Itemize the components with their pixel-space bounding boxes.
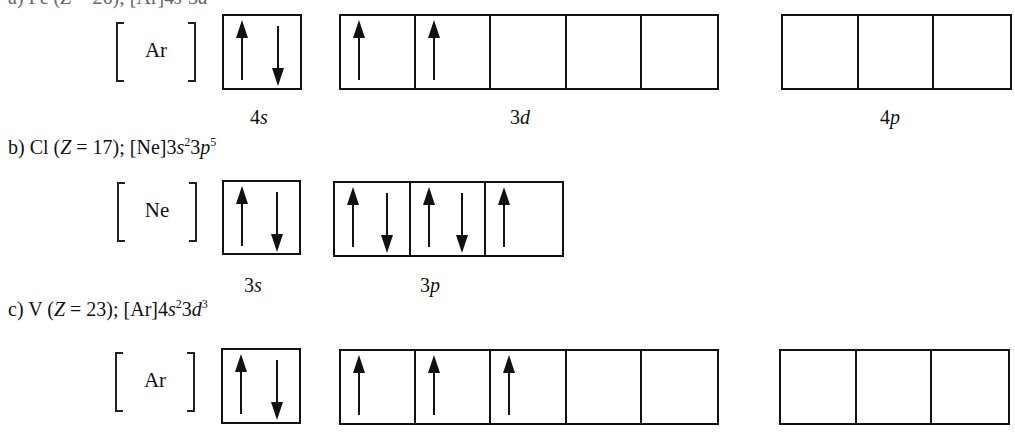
row-b-3p-orbitals	[333, 181, 564, 257]
orbital-box-3d-4	[567, 351, 642, 423]
orbital-box-4s-1	[223, 350, 299, 422]
right-bracket-icon	[188, 22, 196, 82]
orbital-box-3d-2	[416, 16, 491, 88]
row-a-3d-orbitals	[339, 14, 719, 90]
row-c-core-bracket: Ar	[115, 352, 195, 412]
spin-down-arrow-icon	[456, 193, 468, 253]
row-a-4p-label: 4p	[880, 106, 900, 129]
core-symbol: Ne	[117, 198, 197, 223]
spin-up-arrow-icon	[498, 187, 510, 247]
row-a-heading-partial: a) Fe (Z = 26); [Ar]4s23d6	[8, 0, 214, 9]
spin-up-arrow-icon	[236, 20, 248, 80]
row-b-heading: b) Cl (Z = 17); [Ne]3s23p5	[8, 136, 216, 159]
spin-up-arrow-icon	[353, 355, 365, 415]
row-a-4p-orbitals	[781, 14, 1012, 90]
orbital-box-3d-5	[642, 16, 717, 88]
row-c-4s-orbital	[221, 348, 301, 424]
spin-up-arrow-icon	[503, 355, 515, 415]
spin-up-arrow-icon	[428, 20, 440, 80]
core-symbol: Ar	[115, 368, 195, 393]
orbital-box-3s-1	[224, 182, 299, 253]
orbital-box-4p-2	[859, 16, 935, 88]
row-c-heading: c) V (Z = 23); [Ar]4s23d3	[8, 298, 208, 321]
orbital-box-3d-1	[341, 16, 416, 88]
right-bracket-icon	[187, 352, 195, 412]
core-symbol: Ar	[116, 38, 196, 63]
right-bracket-icon	[189, 182, 197, 242]
row-a-core-bracket: Ar	[116, 22, 196, 82]
orbital-box-4p-3	[932, 351, 1008, 423]
orbital-box-4p-1	[781, 351, 857, 423]
row-c-4p-orbitals	[779, 349, 1010, 425]
orbital-box-3d-2	[416, 351, 491, 423]
spin-up-arrow-icon	[235, 354, 247, 414]
orbital-box-3d-4	[567, 16, 642, 88]
orbital-box-4p-1	[783, 16, 859, 88]
orbital-box-3p-2	[411, 183, 487, 255]
spin-up-arrow-icon	[423, 187, 435, 247]
spin-up-arrow-icon	[353, 20, 365, 80]
row-a-4s-label: 4s	[250, 106, 268, 129]
row-b-3s-orbital	[222, 180, 301, 255]
spin-up-arrow-icon	[236, 186, 248, 246]
orbital-box-3d-3	[491, 351, 566, 423]
orbital-box-3p-1	[335, 183, 411, 255]
orbital-box-3d-3	[491, 16, 566, 88]
row-b-3p-label: 3p	[420, 274, 440, 297]
row-a-4s-orbital	[222, 14, 302, 90]
row-c-3d-orbitals	[339, 349, 719, 425]
orbital-box-3p-3	[486, 183, 562, 255]
orbital-box-3d-5	[642, 351, 717, 423]
spin-down-arrow-icon	[271, 192, 283, 252]
row-b-core-bracket: Ne	[117, 182, 197, 242]
spin-down-arrow-icon	[381, 193, 393, 253]
spin-up-arrow-icon	[347, 187, 359, 247]
orbital-box-4p-3	[934, 16, 1010, 88]
row-b-3s-label: 3s	[244, 274, 262, 297]
row-a-3d-label: 3d	[510, 106, 530, 129]
orbital-box-4s-1	[224, 16, 300, 88]
spin-down-arrow-icon	[272, 26, 284, 86]
spin-up-arrow-icon	[428, 355, 440, 415]
spin-down-arrow-icon	[271, 360, 283, 420]
orbital-box-3d-1	[341, 351, 416, 423]
orbital-box-4p-2	[857, 351, 933, 423]
